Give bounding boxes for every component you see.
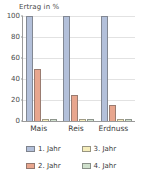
bar-series-2 [109, 105, 116, 121]
y-tick-label: 100 [7, 13, 20, 20]
bar-series-3 [117, 119, 124, 121]
y-tick-label: 40 [11, 76, 20, 83]
y-tick-label: 80 [11, 34, 20, 41]
chart-legend: 1. Jahr 3. Jahr 2. Jahr 4. Jahr [0, 138, 141, 176]
y-tick-mark [21, 58, 23, 59]
chart-title: Ertrag in % [19, 3, 59, 12]
y-tick-label: 60 [11, 55, 20, 62]
x-tick-label: Erdnuss [98, 124, 128, 133]
legend-item-3: 3. Jahr [82, 140, 138, 157]
legend-swatch-series-4 [82, 163, 91, 169]
bar-series-4 [125, 119, 132, 121]
bar-series-1 [63, 16, 70, 121]
bar-group [63, 16, 94, 121]
y-tick-mark [21, 37, 23, 38]
legend-item-2: 2. Jahr [26, 157, 82, 174]
legend-label-series-2: 2. Jahr [38, 162, 61, 170]
y-tick-mark [21, 16, 23, 17]
bar-series-2 [71, 95, 78, 121]
bar-series-4 [87, 119, 94, 121]
bar-series-1 [26, 16, 33, 121]
bar-series-3 [42, 119, 49, 121]
legend-label-series-1: 1. Jahr [38, 145, 61, 153]
legend-swatch-series-1 [26, 146, 35, 152]
y-tick-label: 0 [16, 118, 20, 125]
x-tick-label: Reis [68, 124, 83, 133]
legend-swatch-series-2 [26, 163, 35, 169]
bar-series-3 [79, 119, 86, 121]
plot-area: 020406080100 [22, 16, 135, 122]
legend-label-series-3: 3. Jahr [94, 145, 117, 153]
bar-series-2 [34, 69, 41, 122]
legend-item-1: 1. Jahr [26, 140, 82, 157]
bar-chart-figure: Ertrag in % 020406080100 MaisReisErdnuss… [0, 0, 141, 177]
bar-series-1 [101, 16, 108, 121]
y-tick-mark [21, 121, 23, 122]
bar-series-4 [50, 119, 57, 121]
y-tick-mark [21, 79, 23, 80]
y-tick-mark [21, 100, 23, 101]
legend-item-4: 4. Jahr [82, 157, 138, 174]
bar-group [26, 16, 57, 121]
x-tick-label: Mais [30, 124, 47, 133]
legend-label-series-4: 4. Jahr [94, 162, 117, 170]
y-tick-label: 20 [11, 97, 20, 104]
legend-swatch-series-3 [82, 146, 91, 152]
bar-group [101, 16, 132, 121]
